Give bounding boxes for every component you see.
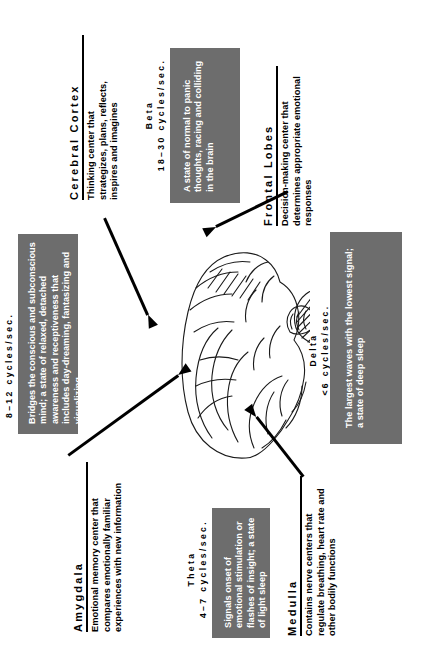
label-frontal-lobes-body: Decision-making center that determines a… (280, 76, 315, 226)
brainwave-alpha-frequency: 8–12 cycles/sec. (4, 288, 16, 418)
brain-illustration (150, 228, 310, 478)
brainwave-theta-heading-group: Theta 4–7 cycles/sec. (186, 506, 209, 632)
label-cerebral-cortex-body: Thinking center that strategizes, plans,… (86, 72, 121, 200)
brainwave-theta-frequency: 4–7 cycles/sec. (198, 506, 210, 632)
brainwave-alpha-box: Bridges the conscious and subconscious m… (18, 234, 78, 434)
brainwave-beta-box: A state of normal to panic thoughts, rac… (170, 48, 240, 203)
brainwave-delta-description: The largest waves with the lowest signal… (344, 248, 367, 428)
brainwave-theta-description: Signals onset of emotional stimulation o… (223, 516, 269, 628)
brainwave-alpha-description: Bridges the conscious and subconscious m… (27, 242, 84, 424)
label-amygdala-rule (86, 462, 88, 632)
label-cerebral-cortex: Cerebral Cortex Thinking center that str… (68, 35, 121, 200)
label-amygdala: Amygdala Emotional memory center that co… (72, 462, 125, 632)
diagram-canvas: Cerebral Cortex Thinking center that str… (0, 0, 424, 654)
brainwave-beta-description: A state of normal to panic thoughts, rac… (182, 56, 216, 192)
label-amygdala-heading: Amygdala (72, 462, 85, 632)
label-cerebral-cortex-heading: Cerebral Cortex (68, 35, 81, 200)
brainwave-beta-name: Beta (144, 55, 156, 175)
brainwave-theta-name: Theta (186, 506, 198, 632)
brainwave-alpha-heading-group: 8–12 cycles/sec. (4, 288, 16, 418)
label-medulla-rule (300, 476, 302, 636)
label-frontal-lobes-rule (276, 66, 278, 226)
brainwave-beta-heading-group: Beta 18–30 cycles/sec. (144, 55, 167, 175)
brainwave-delta-box: The largest waves with the lowest signal… (330, 232, 402, 444)
label-medulla-body: Contains nerve centers that regulate bre… (304, 486, 339, 636)
label-cerebral-cortex-rule (82, 35, 84, 200)
brainwave-theta-box: Signals onset of emotional stimulation o… (212, 508, 270, 638)
brainwave-delta-heading-group: Delta <6 cycles/sec. (308, 280, 331, 420)
label-medulla: Medulla Contains nerve centers that regu… (286, 476, 339, 636)
label-amygdala-body: Emotional memory center that compares em… (90, 472, 125, 632)
brainwave-beta-frequency: 18–30 cycles/sec. (156, 55, 168, 175)
label-medulla-heading: Medulla (286, 476, 299, 636)
